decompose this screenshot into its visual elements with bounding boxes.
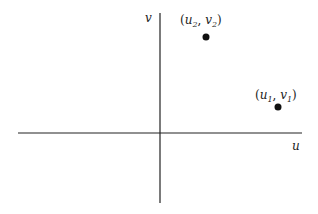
point-u2-v2: (u2, v2) (180, 13, 222, 41)
u-axis-label: u (292, 139, 300, 153)
point-label-u2-v2: (u2, v2) (180, 13, 222, 29)
point-u1-v1: (u1, v1) (255, 88, 297, 111)
v-axis-label: v (145, 11, 152, 25)
point-label-u1-v1: (u1, v1) (255, 88, 297, 104)
point-marker (275, 104, 282, 111)
coordinate-diagram: v u (u2, v2) (u1, v1) (0, 0, 318, 214)
point-marker (203, 34, 210, 41)
